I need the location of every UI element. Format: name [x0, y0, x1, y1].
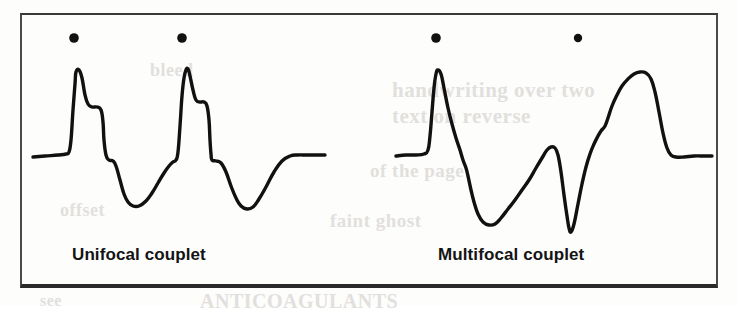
panel-label-unifocal: Unifocal couplet	[72, 245, 206, 265]
panel-label-multifocal: Multifocal couplet	[438, 245, 584, 265]
showthrough-text-7: ANTICOAGULANTS	[200, 290, 398, 312]
showthrough-text-8: see	[40, 292, 62, 310]
